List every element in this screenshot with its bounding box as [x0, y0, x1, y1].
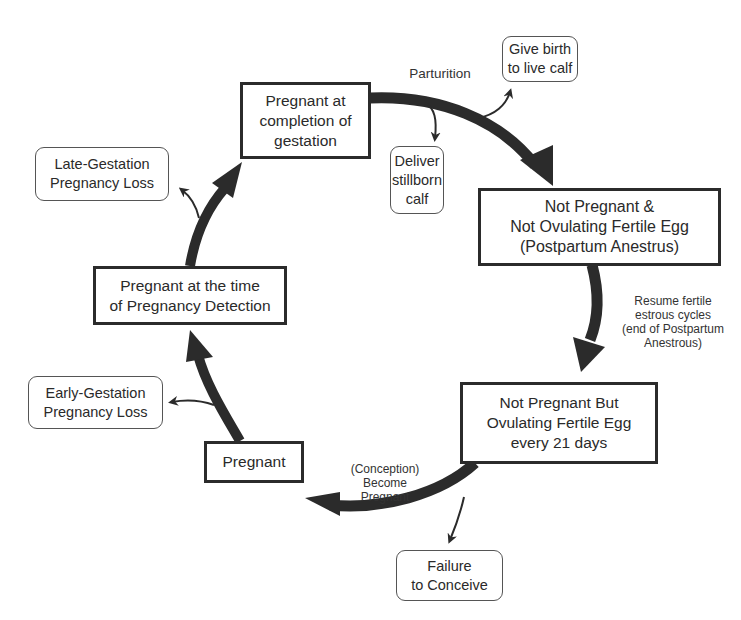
state-label: Pregnant at completion of gestation: [259, 91, 351, 151]
arrow-anestrus-to-ovulating: [573, 265, 605, 372]
state-postpartum-anestrus: Not Pregnant & Not Ovulating Fertile Egg…: [478, 188, 721, 266]
outcome-failure-to-conceive: Failure to Conceive: [396, 550, 503, 601]
transition-resume-cycles-label: Resume fertile estrous cycles (end of Po…: [608, 280, 738, 350]
state-pregnant-at-completion: Pregnant at completion of gestation: [240, 82, 371, 159]
outcome-label: Give birth to live calf: [508, 40, 572, 78]
state-pregnancy-detection: Pregnant at the time of Pregnancy Detect…: [93, 266, 287, 325]
outcome-early-gestation-loss: Early-Gestation Pregnancy Loss: [28, 376, 163, 429]
arrow-to-early-loss: [172, 400, 214, 405]
outcome-label: Failure to Conceive: [411, 557, 488, 595]
state-label: Pregnant at the time of Pregnancy Detect…: [109, 276, 270, 316]
state-label: Pregnant: [223, 452, 286, 472]
transition-conception-label: (Conception) Become Pregnant: [345, 448, 425, 504]
arrow-to-late-loss: [182, 190, 199, 218]
state-label: Not Pregnant & Not Ovulating Fertile Egg…: [510, 197, 689, 257]
outcome-label: Deliver stillborn calf: [392, 152, 442, 209]
arrow-pregnant-to-detection: [186, 330, 240, 441]
state-pregnant: Pregnant: [204, 441, 304, 483]
state-ovulating: Not Pregnant But Ovulating Fertile Egg e…: [460, 382, 658, 464]
arrow-to-live-calf: [478, 92, 510, 118]
transition-parturition-label: Parturition: [400, 66, 480, 81]
outcome-live-calf: Give birth to live calf: [502, 36, 578, 82]
outcome-label: Early-Gestation Pregnancy Loss: [44, 384, 148, 422]
outcome-label: Late-Gestation Pregnancy Loss: [50, 155, 154, 193]
arrow-to-failure: [450, 497, 464, 540]
state-label: Not Pregnant But Ovulating Fertile Egg e…: [487, 393, 632, 453]
outcome-late-gestation-loss: Late-Gestation Pregnancy Loss: [35, 147, 169, 201]
outcome-stillborn: Deliver stillborn calf: [390, 146, 444, 214]
